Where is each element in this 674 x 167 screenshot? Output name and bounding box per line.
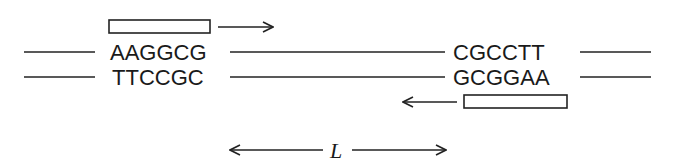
distance-label: L <box>329 138 342 163</box>
forward-primer-box <box>109 20 210 33</box>
bottom-strand: TTCCGC GCGGAA <box>24 65 651 90</box>
primer-diagram: AAGGCG CGCCTT TTCCGC GCGGAA L <box>0 0 674 167</box>
bottom-left-site: TTCCGC <box>112 65 204 90</box>
bottom-right-site: GCGGAA <box>453 65 550 90</box>
top-strand: AAGGCG CGCCTT <box>24 40 651 65</box>
forward-primer <box>109 20 273 33</box>
reverse-primer <box>403 95 567 108</box>
distance-indicator: L <box>230 138 446 163</box>
top-right-site: CGCCTT <box>453 40 545 65</box>
reverse-primer-box <box>464 95 567 108</box>
top-left-site: AAGGCG <box>110 40 207 65</box>
